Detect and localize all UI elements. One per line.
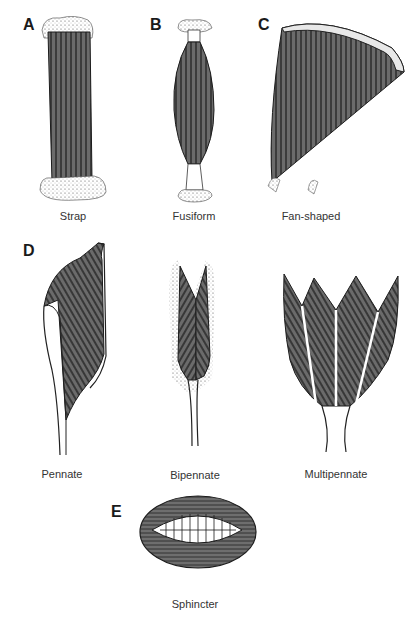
multipennate-muscle-illustration bbox=[284, 274, 399, 452]
caption-strap: Strap bbox=[13, 210, 133, 222]
muscle-shapes-diagram bbox=[0, 0, 416, 621]
caption-fan-shaped: Fan-shaped bbox=[251, 210, 371, 222]
fusiform-muscle-illustration bbox=[174, 20, 214, 202]
pennate-muscle-illustration bbox=[44, 243, 106, 455]
caption-bipennate: Bipennate bbox=[135, 469, 255, 481]
panel-letter-d: D bbox=[23, 242, 35, 260]
bipennate-muscle-illustration bbox=[169, 260, 214, 446]
strap-muscle-illustration bbox=[40, 16, 106, 200]
sphincter-muscle-illustration bbox=[140, 496, 256, 568]
panel-letter-e: E bbox=[111, 503, 122, 521]
caption-pennate: Pennate bbox=[2, 468, 122, 480]
panel-letter-a: A bbox=[23, 16, 35, 34]
caption-fusiform: Fusiform bbox=[134, 210, 254, 222]
panel-letter-b: B bbox=[150, 16, 162, 34]
caption-sphincter: Sphincter bbox=[135, 598, 255, 610]
caption-multipennate: Multipennate bbox=[276, 468, 396, 480]
fan-shaped-muscle-illustration bbox=[268, 24, 404, 194]
panel-letter-c: C bbox=[258, 16, 270, 34]
